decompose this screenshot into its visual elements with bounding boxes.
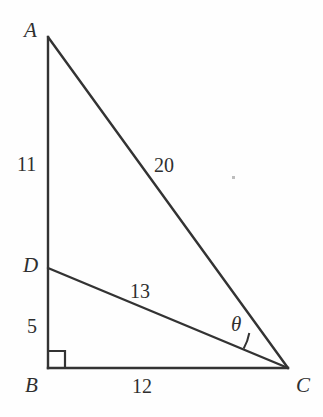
diagram-canvas <box>0 0 323 417</box>
geometry-figure: A B C D 11 5 12 20 13 θ <box>0 0 323 417</box>
length-label-db: 5 <box>27 316 37 336</box>
angle-arc-theta <box>244 333 250 348</box>
vertex-label-a: A <box>24 20 37 41</box>
vertex-label-b: B <box>25 375 38 396</box>
vertex-label-d: D <box>23 255 38 276</box>
angle-label-theta: θ <box>231 314 241 335</box>
scan-artifact-speck <box>232 176 235 179</box>
right-angle-marker <box>48 351 65 368</box>
vertex-label-c: C <box>296 375 310 396</box>
length-label-ac: 20 <box>154 155 174 175</box>
length-label-ad: 11 <box>17 154 36 174</box>
length-label-bc: 12 <box>132 376 152 396</box>
length-label-dc: 13 <box>130 281 150 301</box>
